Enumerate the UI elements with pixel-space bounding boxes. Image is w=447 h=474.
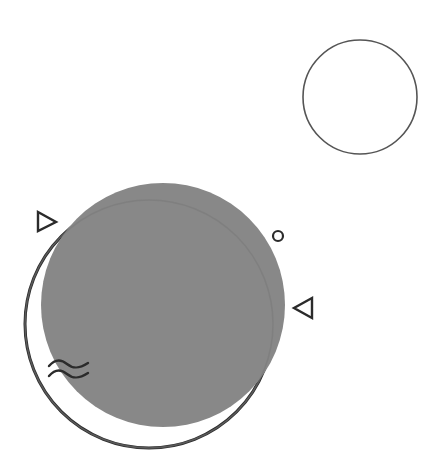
filled-circle-icon: [41, 183, 285, 427]
geometric-illustration: [0, 0, 447, 474]
